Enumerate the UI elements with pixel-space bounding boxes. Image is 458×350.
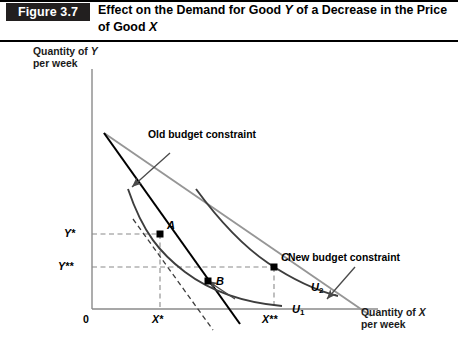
curve-label-u1-text: U	[292, 303, 300, 315]
point-marker-c	[271, 264, 278, 271]
annotation-old-budget-constraint: Old budget constraint	[148, 129, 256, 140]
chart-svg	[0, 41, 458, 350]
curve-label-u2-text: U	[311, 281, 319, 293]
annotation-new-budget-constraint: New budget constraint	[288, 252, 400, 263]
y-tick-label-y-star: Y*	[64, 227, 75, 239]
y-axis-label: Quantity of Y per week	[33, 46, 98, 71]
curve-label-u2: U2	[311, 281, 323, 293]
origin-tick-label: 0	[83, 313, 89, 325]
figure-container: Figure 3.7 Effect on the Demand for Good…	[0, 0, 458, 350]
figure-title: Effect on the Demand for Good Y of a Dec…	[98, 2, 450, 35]
y-axis-label-text: Quantity of	[33, 46, 91, 57]
x-tick-label-x-star: X*	[152, 313, 163, 325]
x-axis-label-line2: per week	[361, 319, 405, 330]
point-label-b: B	[216, 275, 224, 287]
figure-number-badge: Figure 3.7	[6, 3, 90, 21]
y-axis-label-italic: Y	[91, 46, 98, 57]
point-marker-b	[205, 278, 212, 285]
new-budget-pointer-arrow	[327, 267, 355, 299]
curve-label-u2-sub: 2	[319, 286, 323, 295]
point-marker-a	[157, 231, 164, 238]
x-axis-label-text: Quantity of	[361, 307, 419, 318]
y-tick-label-y-doublestar: Y**	[58, 260, 73, 272]
title-text-c: of Good	[98, 20, 149, 34]
compensated-budget-line-dashed	[133, 219, 213, 330]
y-axis-label-line2: per week	[33, 58, 77, 69]
old-budget-pointer-arrow	[132, 153, 170, 187]
indifference-curve-u1	[128, 189, 282, 306]
figure-header: Figure 3.7 Effect on the Demand for Good…	[0, 0, 458, 41]
title-text-a: Effect on the Demand for Good	[98, 3, 285, 17]
title-italic-y: Y	[285, 3, 293, 17]
title-text-b: of a Decrease in the Price	[293, 3, 447, 17]
x-axis-label-italic: X	[419, 307, 426, 318]
figure-title-line2: of Good X	[98, 20, 157, 34]
title-italic-x: X	[149, 20, 157, 34]
curve-label-u1-sub: 1	[300, 308, 304, 317]
x-axis-label: Quantity of X per week	[361, 307, 426, 332]
curve-label-u1: U1	[292, 303, 304, 315]
point-label-a: A	[167, 219, 175, 231]
x-tick-label-x-doublestar: X**	[262, 313, 277, 325]
figure-title-line1: Effect on the Demand for Good Y of a Dec…	[98, 3, 447, 17]
plot-area: Quantity of Y per week Quantity of X per…	[0, 41, 458, 350]
